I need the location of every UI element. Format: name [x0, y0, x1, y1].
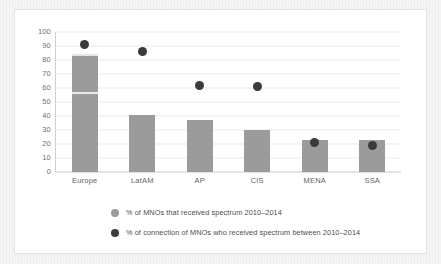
bar-group	[229, 32, 287, 172]
data-point-europe[interactable]	[80, 40, 89, 49]
bar-ap[interactable]	[187, 120, 213, 172]
data-point-latam[interactable]	[138, 47, 147, 56]
x-axis-label-ap: AP	[171, 176, 229, 185]
bar-europe[interactable]	[72, 54, 98, 172]
y-axis-tick-label: 20	[42, 139, 51, 148]
bar-series	[56, 32, 401, 172]
y-axis-tick-label: 40	[42, 111, 51, 120]
legend-item-label: % of connection of MNOs who received spe…	[126, 228, 360, 237]
y-axis-tick-label: 80	[42, 55, 51, 64]
x-axis-labels: EuropeLatAMAPCISMENASSA	[56, 176, 401, 185]
y-axis-tick-label: 0	[47, 167, 51, 176]
bar-group	[171, 32, 229, 172]
data-point-cis[interactable]	[253, 82, 262, 91]
bar-group	[114, 32, 172, 172]
x-axis-label-latam: LatAM	[114, 176, 172, 185]
legend-item[interactable]: % of MNOs that received spectrum 2010–20…	[111, 208, 360, 217]
y-axis-tick-label: 90	[42, 41, 51, 50]
bar-group	[344, 32, 402, 172]
data-point-ap[interactable]	[195, 81, 204, 90]
y-axis-tick-label: 70	[42, 69, 51, 78]
y-axis-tick-label: 50	[42, 97, 51, 106]
y-axis-tick-label: 30	[42, 125, 51, 134]
chart-legend: % of MNOs that received spectrum 2010–20…	[111, 208, 360, 248]
legend-item-label: % of MNOs that received spectrum 2010–20…	[126, 208, 282, 217]
legend-bar-swatch-icon	[111, 209, 119, 217]
legend-dot-swatch-icon	[111, 229, 119, 237]
chart-card: 1009080706050403020100 EuropeLatAMAPCISM…	[14, 9, 427, 254]
bar-group	[286, 32, 344, 172]
data-point-ssa[interactable]	[368, 141, 377, 150]
x-axis-label-mena: MENA	[286, 176, 344, 185]
x-axis-label-europe: Europe	[56, 176, 114, 185]
legend-item[interactable]: % of connection of MNOs who received spe…	[111, 228, 360, 237]
bar-group	[56, 32, 114, 172]
y-axis-tick-label: 100	[38, 27, 51, 36]
bar-latam[interactable]	[129, 115, 155, 172]
bar-segment-divider	[72, 92, 98, 94]
y-axis-tick-label: 60	[42, 83, 51, 92]
y-axis-tick-label: 10	[42, 153, 51, 162]
plot-area: 1009080706050403020100	[56, 32, 401, 172]
x-axis-label-ssa: SSA	[344, 176, 402, 185]
bar-cis[interactable]	[244, 130, 270, 172]
x-axis-label-cis: CIS	[229, 176, 287, 185]
